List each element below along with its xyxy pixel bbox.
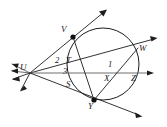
ray-u-w-arrowhead xyxy=(150,36,158,42)
ray-u-y-arrowhead xyxy=(135,113,143,119)
left-ray-1-arrowhead xyxy=(12,64,19,69)
label-point-v: V xyxy=(61,25,67,34)
geometry-figure: U V W Y X Z T S 2 3 1 xyxy=(0,0,167,127)
left-ray-3-arrowhead xyxy=(12,77,20,82)
label-point-s: S xyxy=(66,80,71,89)
label-point-z: Z xyxy=(131,74,136,83)
ray-u-w-line xyxy=(30,39,154,73)
label-point-t: T xyxy=(66,56,71,65)
label-angle-2: 2 xyxy=(55,56,59,65)
label-point-u: U xyxy=(20,63,27,72)
label-point-w: W xyxy=(139,44,147,53)
label-angle-1: 1 xyxy=(108,60,112,69)
label-point-x: X xyxy=(104,74,110,83)
label-point-y: Y xyxy=(88,102,93,111)
ray-u-z-arrowhead xyxy=(147,71,154,76)
label-angle-3: 3 xyxy=(63,67,67,76)
point-marker-v xyxy=(70,34,75,39)
left-ray-2-arrowhead xyxy=(11,69,18,74)
left-ray-4-arrowhead xyxy=(20,86,27,92)
